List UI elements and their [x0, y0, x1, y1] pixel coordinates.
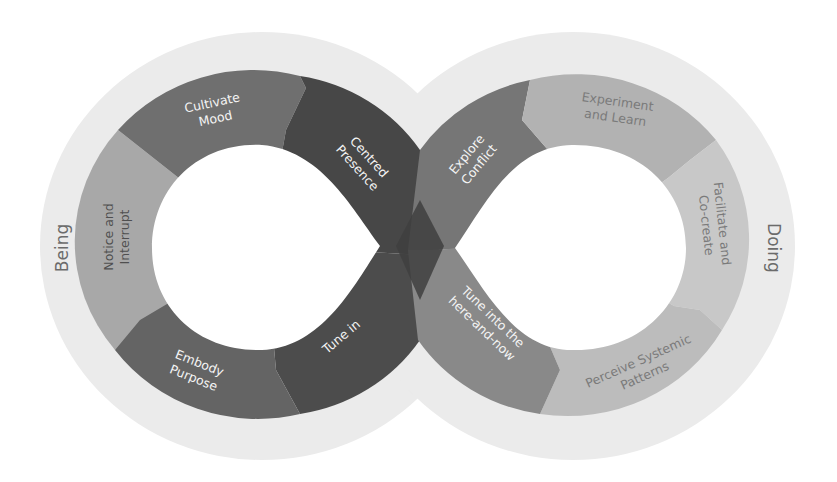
label-doing: Doing [764, 223, 784, 273]
svg-text:Interrupt: Interrupt [117, 209, 132, 264]
label-notice-and-interrupt: Notice and Interrupt [101, 203, 132, 270]
label-being: Being [52, 224, 72, 272]
infinity-diagram: Being Doing Cultivate Mood Centred Prese… [0, 0, 837, 482]
svg-text:Notice and: Notice and [101, 203, 116, 270]
